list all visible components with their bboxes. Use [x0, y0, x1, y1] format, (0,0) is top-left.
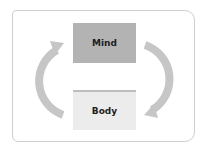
left-curved-arrow-icon	[39, 41, 64, 115]
right-curved-arrow-icon	[144, 45, 170, 118]
mind-node: Mind	[73, 23, 136, 63]
body-node: Body	[73, 90, 136, 130]
mind-label: Mind	[92, 38, 117, 48]
body-label: Body	[92, 106, 117, 116]
